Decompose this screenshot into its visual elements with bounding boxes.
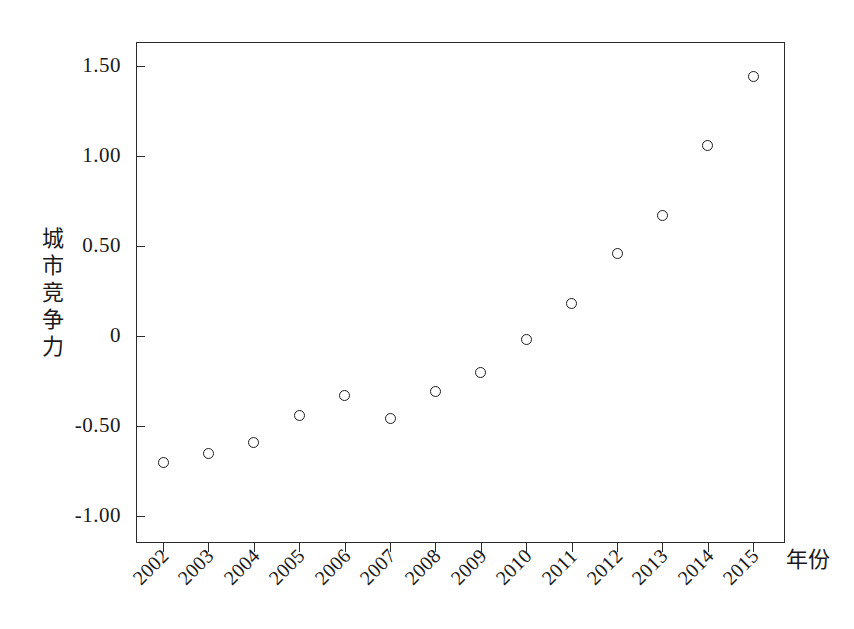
y-axis-tick-label: 0 [11, 325, 121, 346]
y-axis-tick-mark [136, 246, 145, 247]
data-point-marker [475, 367, 486, 378]
y-axis-tick-mark [136, 66, 145, 67]
x-axis-tick-label: 2008 [401, 545, 444, 588]
x-axis-tick-label: 2013 [628, 545, 671, 588]
y-axis-tick-mark [136, 156, 145, 157]
x-axis-title: 年份 [786, 548, 830, 572]
data-point-marker [203, 448, 214, 459]
data-point-marker [748, 71, 759, 82]
x-axis-tick-label: 2005 [265, 545, 308, 588]
data-point-marker [385, 413, 396, 424]
data-point-marker [248, 437, 259, 448]
data-point-marker [521, 334, 532, 345]
scatter-chart-figure: 1.501.000.500-0.50-1.00 2002200320042005… [0, 0, 854, 629]
data-point-marker [612, 248, 623, 259]
y-axis-title: 城市竞争力 [40, 225, 66, 360]
y-axis-tick-mark [136, 426, 145, 427]
x-axis-tick-label: 2007 [356, 545, 399, 588]
x-axis-tick-label: 2006 [311, 545, 354, 588]
plot-area-frame [136, 42, 785, 543]
y-axis-tick-label: -0.50 [11, 415, 121, 436]
data-point-marker [657, 210, 668, 221]
y-axis-tick-label: 1.50 [11, 55, 121, 76]
x-axis-tick-label: 2002 [129, 545, 172, 588]
y-axis-title-char: 争 [40, 306, 66, 333]
y-axis-title-char: 城 [40, 225, 66, 252]
data-point-marker [702, 140, 713, 151]
x-axis-tick-label: 2009 [447, 545, 490, 588]
data-point-marker [158, 457, 169, 468]
x-axis-tick-label: 2014 [674, 545, 717, 588]
x-axis-tick-label: 2003 [174, 545, 217, 588]
data-point-marker [294, 410, 305, 421]
x-axis-tick-label: 2004 [220, 545, 263, 588]
y-axis-title-char: 竞 [40, 279, 66, 306]
y-axis-title-char: 力 [40, 333, 66, 360]
x-axis-tick-label: 2015 [719, 545, 762, 588]
data-point-marker [339, 390, 350, 401]
y-axis-tick-mark [136, 516, 145, 517]
y-axis-tick-mark [136, 336, 145, 337]
x-axis-tick-label: 2012 [583, 545, 626, 588]
x-axis-tick-label: 2011 [538, 545, 581, 588]
y-axis-tick-label: -1.00 [11, 505, 121, 526]
y-axis-tick-label: 1.00 [11, 145, 121, 166]
x-axis-tick-label: 2010 [492, 545, 535, 588]
y-axis-tick-label: 0.50 [11, 235, 121, 256]
y-axis-title-char: 市 [40, 252, 66, 279]
